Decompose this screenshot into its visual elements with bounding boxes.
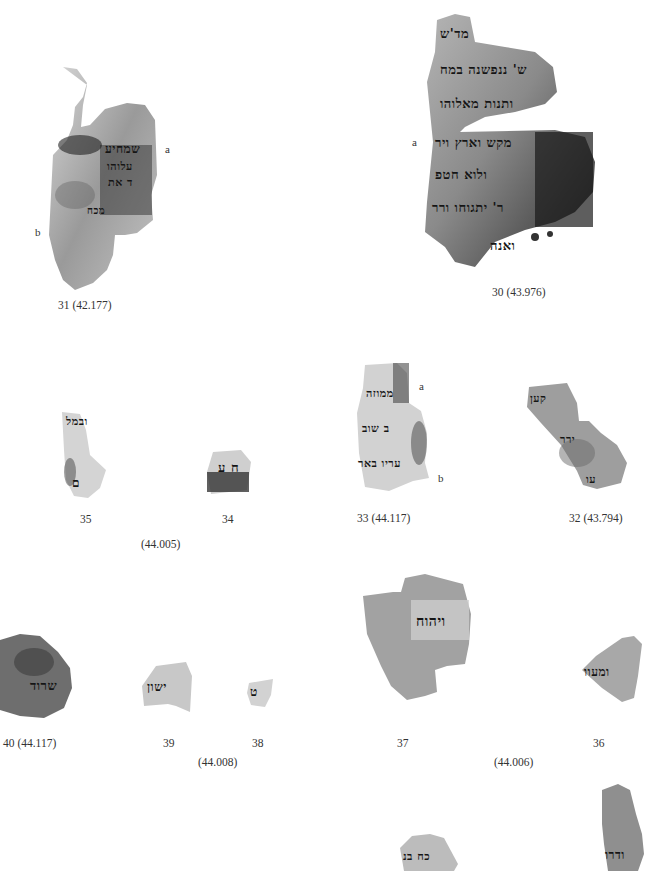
fragment-30-text-line-5: ולוא חטפ (435, 167, 487, 183)
fragment-33-text-line-3: עריו באר (358, 457, 401, 470)
fragment-30-mark-a: a (412, 136, 417, 148)
fragment-30-text-line-4: מקש וארץ ויר (435, 135, 512, 151)
fragment-38-text-line-1: ט (250, 685, 258, 700)
fragment-32-caption: 32 (43.794) (569, 512, 623, 524)
fragment-37-caption: 37 (397, 737, 409, 749)
fragment-30-text-line-2: ש' ננפשנה במח (440, 62, 527, 78)
fragment-40-caption: 40 (44.117) (3, 737, 56, 749)
group-caption-44-006: (44.006) (494, 756, 533, 768)
fragment-38-caption: 38 (252, 737, 264, 749)
fragment-31-text-line-3: ד את (108, 176, 133, 189)
manuscript-plate: שמחיע עלוהו ד את מכח a b 31 (42.177) מד'… (0, 0, 659, 871)
fragment-39-caption: 39 (163, 737, 175, 749)
fragment-33-text-line-2: ב שוב (362, 422, 390, 435)
fragment-30-text-line-6: ר' יתגוחו ורר (432, 200, 504, 216)
fragment-42-text-line-1: ודרו (605, 848, 625, 863)
fragment-32-text-line-2: ירר (560, 433, 575, 446)
fragment-30-text-line-7: ואנה (490, 238, 515, 254)
group-caption-44-005: (44.005) (141, 538, 180, 550)
fragment-31-mark-a: a (165, 143, 170, 155)
fragment-35-text-line-1: ובמל (66, 415, 88, 428)
fragment-32-text-line-3: עו (586, 473, 596, 486)
fragment-32-text-line-1: קען (530, 392, 546, 405)
fragment-30-caption: 30 (43.976) (492, 286, 546, 298)
fragment-33-text-line-1: ממוזה (366, 387, 394, 400)
fragment-36-caption: 36 (593, 737, 605, 749)
fragment-33-mark-b: b (438, 472, 444, 484)
group-caption-44-008: (44.008) (198, 756, 237, 768)
fragment-37-image (363, 574, 471, 704)
fragment-35-text-line-2: ם (72, 476, 80, 491)
fragment-40-image (0, 632, 72, 720)
fragment-33-mark-a: a (419, 380, 424, 392)
fragment-36-text-line-1: ומעוו (584, 665, 610, 680)
fragment-34-caption: 34 (222, 513, 234, 525)
fragment-30-text-line-1: מד'ש (440, 26, 469, 42)
fragment-31-mark-b: b (35, 226, 41, 238)
fragment-33-caption: 33 (44.117) (357, 512, 410, 524)
fragment-31-text-line-4: מכח (87, 205, 105, 216)
fragment-31-caption: 31 (42.177) (58, 299, 112, 311)
fragment-39-text-line-1: ישון (147, 680, 167, 695)
fragment-40-text-line-1: שרוד (30, 678, 57, 694)
fragment-31-text-line-2: עלוהו (107, 160, 133, 173)
fragment-41-text-line-1: כח בנ (403, 850, 430, 863)
fragment-31-image (45, 65, 160, 295)
fragment-31-text-line-1: שמחיע (105, 142, 140, 157)
fragment-37-text-line-1: ויהוח (416, 613, 446, 630)
fragment-30-text-line-3: ותנות מאלוהו (440, 96, 514, 112)
fragment-34-text-line-1: ח ע (218, 460, 239, 476)
fragment-35-caption: 35 (80, 513, 92, 525)
